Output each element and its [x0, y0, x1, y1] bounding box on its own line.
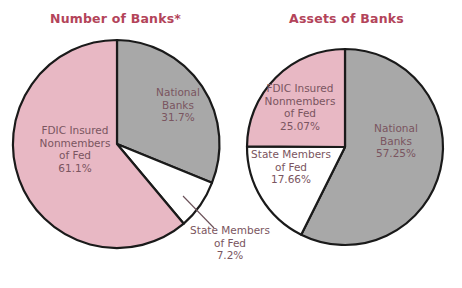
label-line: Banks: [140, 99, 216, 112]
label-value: 61.1%: [17, 162, 133, 175]
label-value: 17.66%: [238, 173, 344, 186]
label-value: 57.25%: [352, 147, 440, 160]
pie-label-fdic-insured-left: FDIC Insured Nonmembers of Fed 61.1%: [17, 124, 133, 174]
pie-label-state-members-right: State Members of Fed 17.66%: [238, 148, 344, 186]
label-line: Nonmembers: [17, 137, 133, 150]
pie-label-state-members-left: State Members of Fed 7.2%: [176, 224, 284, 262]
label-line: of Fed: [176, 237, 284, 250]
bank-charts-figure: Number of Banks* Assets of Banks Nationa…: [0, 0, 462, 288]
pie-label-national-banks-right: National Banks 57.25%: [352, 122, 440, 160]
label-line: of Fed: [17, 149, 133, 162]
label-line: FDIC Insured: [250, 82, 350, 95]
label-line: FDIC Insured: [17, 124, 133, 137]
label-line: State Members: [176, 224, 284, 237]
pie-label-national-banks-left: National Banks 31.7%: [140, 86, 216, 124]
label-line: State Members: [238, 148, 344, 161]
label-line: National: [140, 86, 216, 99]
label-line: National: [352, 122, 440, 135]
label-value: 25.07%: [250, 120, 350, 133]
pie-label-fdic-insured-right: FDIC Insured Nonmembers of Fed 25.07%: [250, 82, 350, 132]
label-line: Banks: [352, 135, 440, 148]
label-value: 31.7%: [140, 111, 216, 124]
label-value: 7.2%: [176, 249, 284, 262]
label-line: of Fed: [250, 107, 350, 120]
label-line: Nonmembers: [250, 95, 350, 108]
label-line: of Fed: [238, 161, 344, 174]
